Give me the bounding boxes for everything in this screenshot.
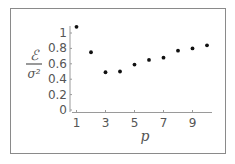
data-point — [104, 70, 108, 74]
x-tick-label: 1 — [73, 116, 81, 130]
x-tick-label: 7 — [160, 116, 168, 130]
y-tick-label: 0 — [59, 103, 67, 117]
x-axis-title: p — [141, 128, 150, 144]
x-tick-label: 9 — [189, 116, 197, 130]
data-point — [147, 58, 151, 62]
y-tick-labels: 0 0.2 0.4 0.6 0.8 1 — [48, 26, 67, 117]
y-tick-label: 0.6 — [48, 57, 67, 71]
y-tick-label: 0.4 — [48, 72, 67, 86]
x-tick-label: 5 — [131, 116, 139, 130]
y-axis-title-denominator: σ² — [27, 67, 40, 81]
scatter-chart: 0 0.2 0.4 0.6 0.8 1 1 3 5 7 9 p ℰ σ² — [0, 0, 235, 164]
data-points — [75, 25, 209, 74]
x-axis-ticks — [77, 110, 193, 112]
y-tick-label: 0.8 — [48, 41, 67, 55]
y-tick-label: 0.2 — [48, 88, 67, 102]
data-point — [133, 63, 137, 67]
data-point — [75, 25, 79, 29]
data-point — [205, 43, 209, 47]
x-tick-label: 3 — [102, 116, 110, 130]
y-axis-title: ℰ σ² — [26, 47, 42, 81]
data-point — [191, 47, 195, 51]
x-tick-labels: 1 3 5 7 9 — [73, 116, 197, 130]
y-axis-title-numerator: ℰ — [30, 47, 40, 63]
data-point — [118, 70, 122, 74]
y-tick-label: 1 — [59, 26, 67, 40]
data-point — [89, 50, 93, 54]
data-point — [162, 56, 166, 60]
data-point — [176, 49, 180, 53]
